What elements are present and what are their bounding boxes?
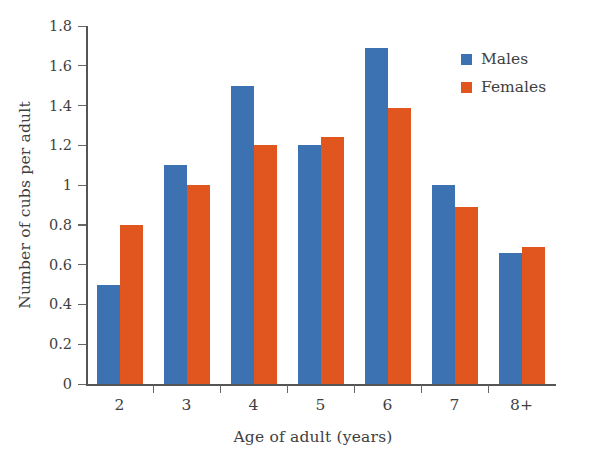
bar-males-5	[298, 145, 321, 384]
legend-label: Females	[481, 78, 546, 96]
x-tick-mark	[153, 385, 154, 393]
x-tick-label: 3	[152, 396, 222, 414]
y-tick-mark	[78, 65, 86, 66]
y-tick-label: 1.6	[14, 58, 72, 74]
bar-females-7	[455, 207, 478, 384]
y-tick-mark	[78, 185, 86, 186]
bar-females-8plus	[522, 247, 545, 384]
bar-females-2	[120, 225, 143, 384]
x-tick-mark	[354, 385, 355, 393]
bar-chart: Number of cubs per adult 00.20.40.60.811…	[0, 0, 590, 468]
y-tick-label: 0	[14, 376, 72, 392]
y-tick-mark	[78, 304, 86, 305]
y-tick-mark	[78, 105, 86, 106]
y-tick-label: 0.4	[14, 296, 72, 312]
y-tick-label: 0.6	[14, 257, 72, 273]
bar-males-4	[231, 86, 254, 384]
bar-females-5	[321, 137, 344, 384]
x-axis-line	[86, 384, 556, 386]
bar-females-4	[254, 145, 277, 384]
x-tick-mark	[287, 385, 288, 393]
bar-females-3	[187, 185, 210, 384]
legend-item: Females	[461, 75, 546, 99]
y-tick-mark	[78, 344, 86, 345]
x-tick-mark	[220, 385, 221, 393]
y-tick-label: 0.2	[14, 336, 72, 352]
y-tick-label: 1.4	[14, 98, 72, 114]
y-tick-label: 1.2	[14, 137, 72, 153]
x-tick-mark	[421, 385, 422, 393]
x-tick-label: 5	[286, 396, 356, 414]
legend-item: Males	[461, 47, 546, 71]
y-tick-mark	[78, 224, 86, 225]
chart-legend: MalesFemales	[461, 47, 546, 103]
legend-swatch-icon	[461, 54, 472, 65]
bar-males-8plus	[499, 253, 522, 384]
y-tick-mark	[78, 264, 86, 265]
y-tick-mark	[78, 384, 86, 385]
x-tick-mark	[488, 385, 489, 393]
x-tick-label: 6	[353, 396, 423, 414]
bar-females-6	[388, 108, 411, 384]
bar-males-2	[97, 285, 120, 384]
x-tick-label: 7	[420, 396, 490, 414]
x-axis-title: Age of adult (years)	[70, 428, 556, 446]
x-tick-label: 4	[219, 396, 289, 414]
bar-males-3	[164, 165, 187, 384]
bar-males-7	[432, 185, 455, 384]
legend-label: Males	[481, 50, 528, 68]
y-tick-label: 1.8	[14, 18, 72, 34]
x-tick-label: 2	[85, 396, 155, 414]
y-tick-mark	[78, 145, 86, 146]
y-tick-label: 1	[14, 177, 72, 193]
legend-swatch-icon	[461, 82, 472, 93]
x-tick-label: 8+	[487, 396, 557, 414]
y-tick-label: 0.8	[14, 217, 72, 233]
y-tick-mark	[78, 26, 86, 27]
bar-males-6	[365, 48, 388, 384]
